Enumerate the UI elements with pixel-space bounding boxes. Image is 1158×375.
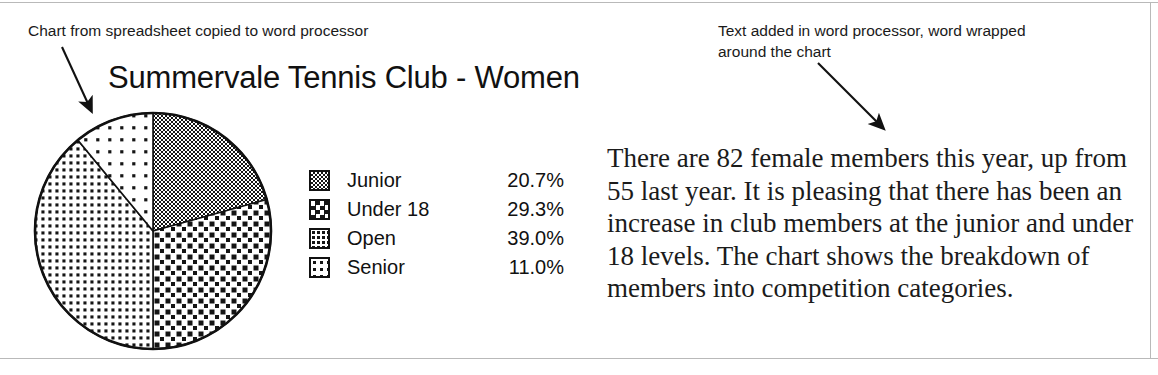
legend-value: 39.0%	[507, 227, 564, 250]
legend-value: 20.7%	[507, 169, 564, 192]
legend-label: Junior	[347, 169, 507, 192]
body-paragraph: There are 82 female members this year, u…	[607, 142, 1152, 305]
chart-title: Summervale Tennis Club - Women	[108, 60, 580, 96]
legend-row[interactable]: Junior20.7%	[309, 166, 564, 194]
legend-row[interactable]: Under 1829.3%	[309, 195, 564, 223]
chart-legend: Junior20.7%Under 1829.3%Open39.0%Senior1…	[309, 166, 564, 282]
legend-label: Open	[347, 227, 507, 250]
legend-label: Senior	[347, 256, 509, 279]
legend-label: Under 18	[347, 198, 507, 221]
legend-row[interactable]: Open39.0%	[309, 224, 564, 252]
legend-swatch-medium-dots	[309, 228, 330, 249]
legend-value: 11.0%	[509, 256, 564, 279]
document-page: Chart from spreadsheet copied to word pr…	[0, 0, 1158, 375]
legend-swatch-fine-checker	[309, 170, 330, 191]
legend-swatch-sparse-dots	[309, 257, 330, 278]
legend-value: 29.3%	[507, 198, 564, 221]
pie-chart	[33, 111, 273, 351]
legend-swatch-bold-checker	[309, 199, 330, 220]
legend-row[interactable]: Senior11.0%	[309, 253, 564, 281]
